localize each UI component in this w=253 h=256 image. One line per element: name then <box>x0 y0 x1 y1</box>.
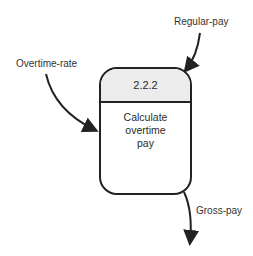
process-name: Calculate overtime pay <box>101 103 190 150</box>
process-name-line: overtime <box>101 124 190 137</box>
regular-pay-arrow <box>186 33 200 70</box>
process-name-line: pay <box>101 137 190 150</box>
overtime-rate-label: Overtime-rate <box>16 58 77 69</box>
gross-pay-label: Gross-pay <box>196 205 242 216</box>
gross-pay-arrow <box>184 192 191 242</box>
process-name-line: Calculate <box>101 111 190 124</box>
process-box: 2.2.2 Calculate overtime pay <box>99 67 192 195</box>
regular-pay-label: Regular-pay <box>174 16 228 27</box>
overtime-rate-arrow <box>46 74 95 130</box>
process-id: 2.2.2 <box>101 69 190 103</box>
